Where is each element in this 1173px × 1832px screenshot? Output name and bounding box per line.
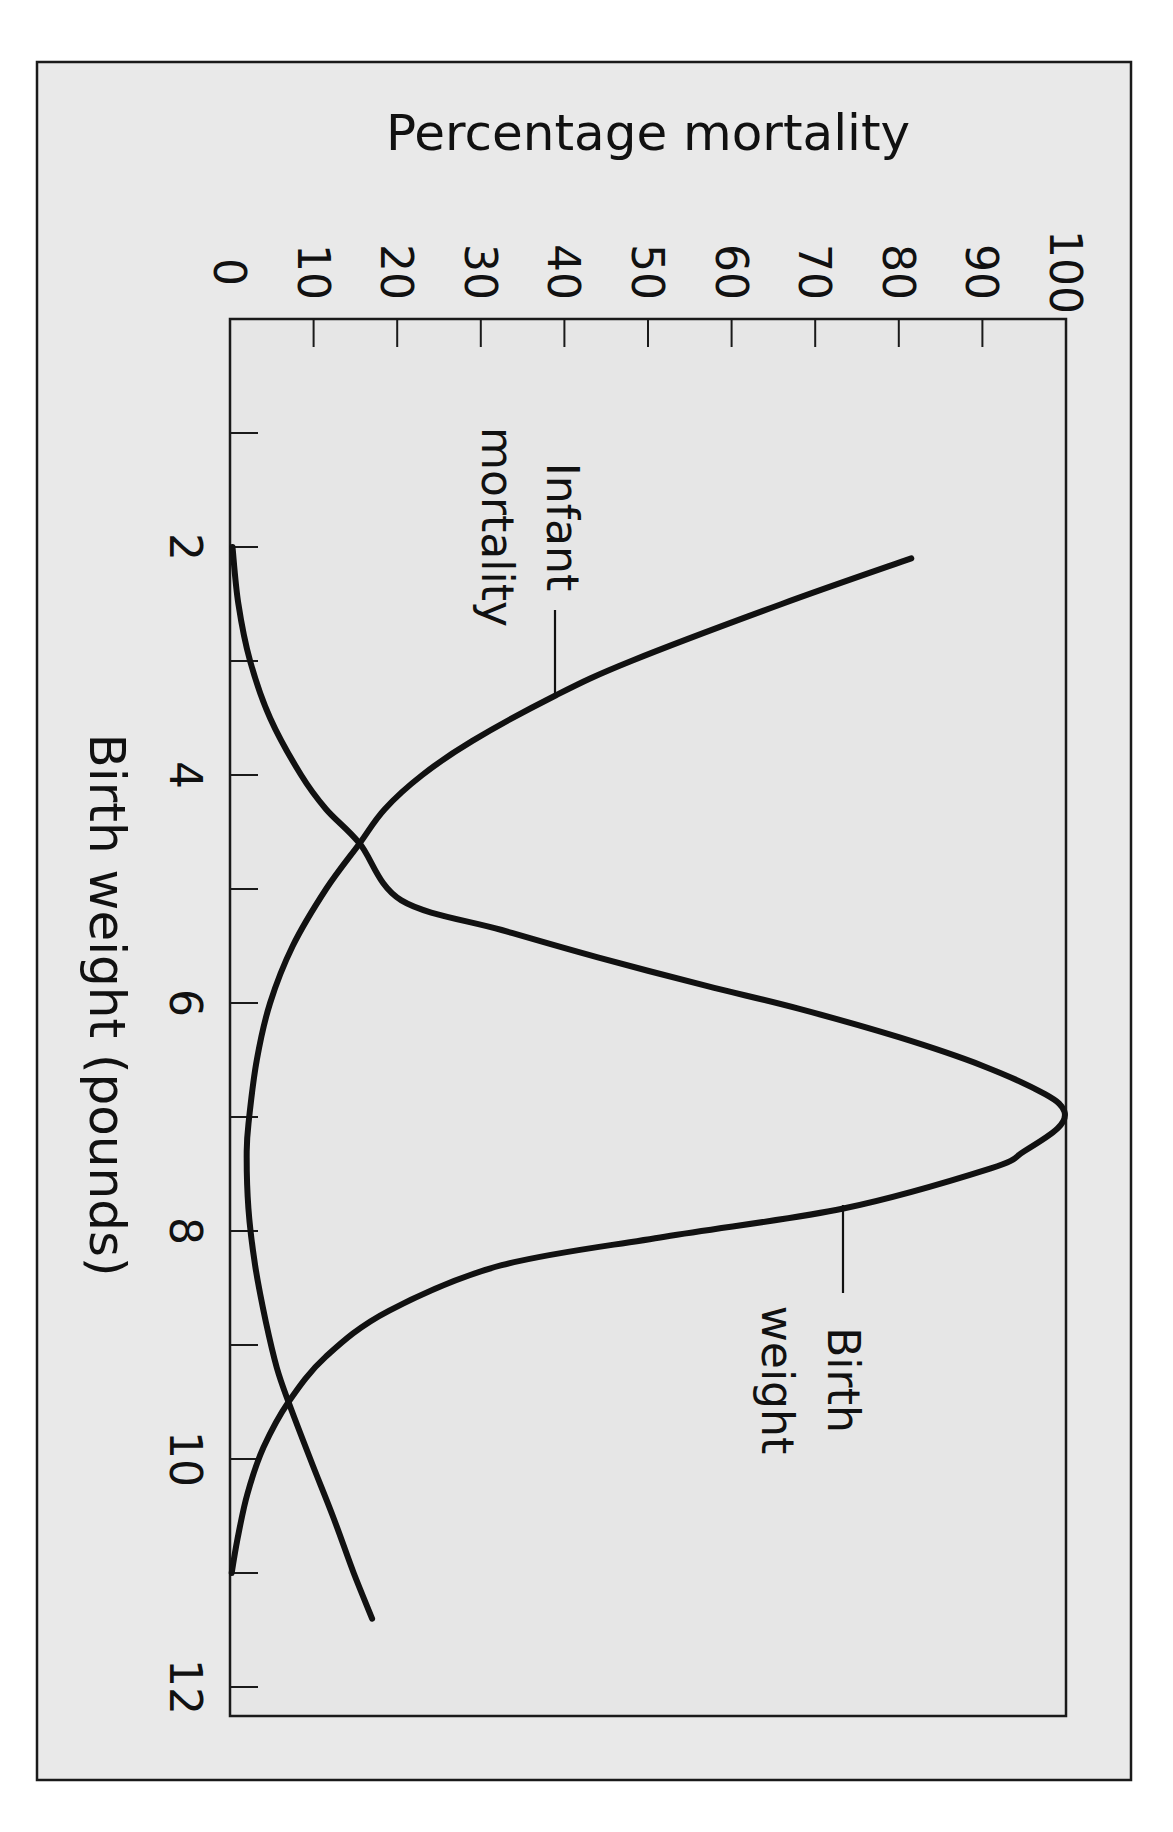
x-tick-label-2: 2 <box>160 533 211 561</box>
x-tick-label-6: 6 <box>160 989 211 1017</box>
birth-weight-label-line-2: weight <box>752 1306 803 1454</box>
y-tick-label-30: 30 <box>455 244 506 300</box>
infant-mortality-label-line-1: Infant <box>537 463 588 591</box>
infant-mortality-label-line-2: mortality <box>472 427 523 627</box>
x-tick-label-8: 8 <box>160 1217 211 1245</box>
y-tick-label-0: 0 <box>204 258 255 286</box>
x-axis-title: Birth weight (pounds) <box>78 734 136 1277</box>
x-tick-label-10: 10 <box>160 1431 211 1487</box>
y-tick-label-10: 10 <box>288 244 339 300</box>
y-tick-label-100: 100 <box>1040 230 1091 314</box>
y-tick-label-90: 90 <box>956 244 1007 300</box>
y-tick-label-20: 20 <box>371 244 422 300</box>
y-tick-label-60: 60 <box>706 244 757 300</box>
y-tick-label-50: 50 <box>622 244 673 300</box>
plot-area <box>230 319 1066 1716</box>
x-tick-label-12: 12 <box>160 1659 211 1715</box>
y-axis-title: Percentage mortality <box>386 104 910 162</box>
y-tick-label-70: 70 <box>789 244 840 300</box>
chart-figure: Percentage mortality 0102030405060708090… <box>0 0 1173 1832</box>
y-tick-label-80: 80 <box>873 244 924 300</box>
x-tick-label-4: 4 <box>160 761 211 789</box>
birth-weight-label-line-1: Birth <box>818 1327 869 1433</box>
y-tick-label-40: 40 <box>538 244 589 300</box>
